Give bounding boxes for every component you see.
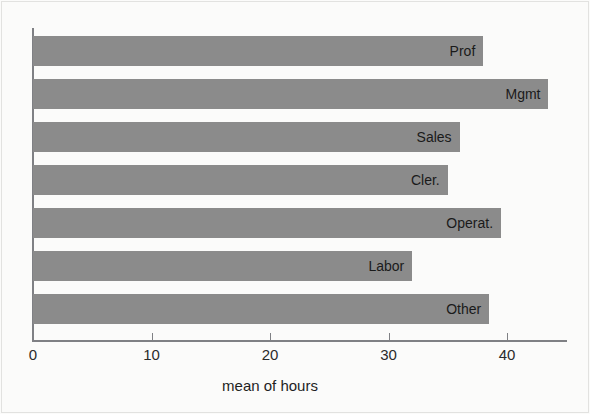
x-tick-label-20: 20 [262,346,279,363]
plot-area: ProfMgmtSalesCler.Operat.LaborOther 0102… [0,0,590,414]
x-axis-line [32,340,567,342]
bar-label-mgmt: Mgmt [505,87,540,101]
bar-mgmt [33,79,548,109]
bar-label-operat: Operat. [446,216,493,230]
bar-other [33,294,489,324]
x-tick-label-30: 30 [380,346,397,363]
x-tick-mark-10 [152,333,153,341]
bar-operat [33,208,501,238]
x-tick-label-0: 0 [29,346,37,363]
x-axis-title: mean of hours [222,377,318,394]
x-tick-mark-20 [270,333,271,341]
bar-label-cler: Cler. [411,173,440,187]
bar-label-other: Other [446,302,481,316]
bar-label-labor: Labor [368,259,404,273]
bar-sales [33,122,460,152]
x-tick-label-10: 10 [143,346,160,363]
bar-prof [33,36,483,66]
bar-label-sales: Sales [417,130,452,144]
bar-label-prof: Prof [450,44,476,58]
bar-cler [33,165,448,195]
x-tick-label-40: 40 [499,346,516,363]
x-tick-mark-30 [389,333,390,341]
chart-figure: ProfMgmtSalesCler.Operat.LaborOther 0102… [0,0,590,414]
x-tick-mark-0 [33,333,34,341]
x-tick-mark-40 [507,333,508,341]
bar-labor [33,251,412,281]
